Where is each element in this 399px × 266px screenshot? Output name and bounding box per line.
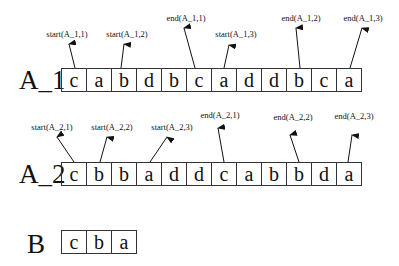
cell: a (336, 68, 362, 92)
label-end-a1-1: end(A_1,1) (167, 13, 206, 23)
cell: d (261, 68, 287, 92)
arrow-start-a1-1 (69, 44, 75, 68)
arrow-end-a1-2 (296, 28, 300, 68)
cell: d (161, 162, 187, 186)
label-end-a2-2: end(A_2,2) (274, 112, 313, 122)
cell: c (311, 68, 337, 92)
cell: d (236, 68, 262, 92)
label-start-a2-1: start(A_2,1) (31, 122, 72, 132)
arrow-start-a2-2 (100, 137, 107, 162)
arrow-end-a2-3 (348, 135, 352, 162)
arrow-start-a1-2 (121, 44, 124, 68)
arrow-start-a2-3 (150, 137, 167, 162)
row-label-a2: A_2 (19, 161, 66, 188)
cell: b (161, 68, 187, 92)
cell: c (61, 230, 87, 254)
cell: c (61, 162, 87, 186)
sequence-b: c b a (61, 230, 137, 254)
sequence-a2: c b b a d d c a b b d a (61, 162, 362, 186)
cell: b (111, 162, 137, 186)
cell: a (136, 162, 162, 186)
cell: a (236, 162, 262, 186)
label-end-a2-3: end(A_2,3) (335, 111, 374, 121)
arrow-end-a2-1 (218, 128, 224, 162)
arrow-start-a1-3 (224, 45, 229, 68)
cell: a (211, 68, 237, 92)
label-end-a2-1: end(A_2,1) (201, 110, 240, 120)
row-label-a1: A_1 (19, 67, 66, 94)
cell: a (111, 230, 137, 254)
cell: d (311, 162, 337, 186)
cell: b (86, 230, 112, 254)
label-end-a1-2: end(A_1,2) (282, 13, 321, 23)
arrows-layer (0, 0, 399, 266)
arrow-end-a2-2 (290, 135, 299, 162)
cell: b (286, 68, 312, 92)
label-start-a1-1: start(A_1,1) (46, 29, 87, 39)
sequence-a1: c a b d b c a d d b c a (61, 68, 362, 92)
cell: c (61, 68, 87, 92)
cell: b (286, 162, 312, 186)
label-start-a2-2: start(A_2,2) (91, 122, 132, 132)
row-label-b: B (27, 231, 45, 258)
cell: d (186, 162, 212, 186)
cell: d (136, 68, 162, 92)
cell: b (111, 68, 137, 92)
cell: b (261, 162, 287, 186)
cell: a (86, 68, 112, 92)
label-end-a1-3: end(A_1,3) (344, 13, 383, 23)
arrow-end-a1-3 (350, 28, 362, 68)
arrow-end-a1-1 (184, 28, 195, 68)
label-start-a1-3: start(A_1,3) (215, 29, 256, 39)
cell: b (86, 162, 112, 186)
cell: c (186, 68, 212, 92)
label-start-a1-2: start(A_1,2) (106, 29, 147, 39)
label-start-a2-3: start(A_2,3) (151, 122, 192, 132)
cell: a (336, 162, 362, 186)
cell: c (211, 162, 237, 186)
